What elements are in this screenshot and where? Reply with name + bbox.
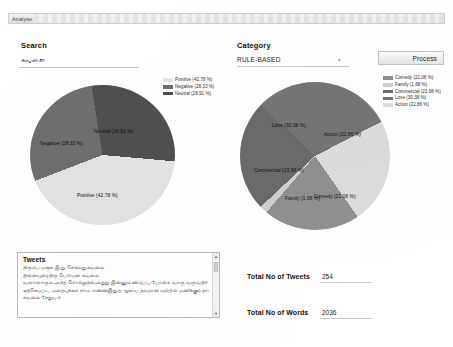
legend-label-neutral: Neutral (28.91 %): [175, 91, 211, 97]
legend-label-family: Family (1.68 %): [395, 82, 427, 88]
tweets-panel: Tweets திரும்ப மஞ்சு இ.து செல்லது கவலை த…: [17, 252, 220, 318]
legend-item: Love (30.38 %): [383, 95, 441, 101]
sentiment-pie-chart: Neutral (28.91 %) Negative (28.33 %) Pos…: [30, 85, 175, 225]
total-words-label: Total No of Words: [247, 309, 308, 316]
legend-swatch-commercial: [383, 90, 393, 94]
legend-label-negative: Negative (28.33 %): [175, 84, 214, 90]
genre-slice-label-love: Love (30.38 %): [272, 123, 306, 128]
window-titlebar: Analyse: [8, 13, 445, 24]
sentiment-slice-label-positive: Positive (42.78 %): [77, 193, 118, 198]
list-item: கவலை நேதுய.ர்: [23, 294, 209, 302]
genre-slice-label-action: Action (22.86 %): [324, 132, 361, 137]
tweets-list[interactable]: திரும்ப மஞ்சு இ.து செல்லது கவலை தினையுரை…: [18, 264, 219, 302]
category-label: Category: [237, 41, 271, 50]
sentiment-legend: Positive (42.78 %) Negative (28.33 %) Ne…: [163, 77, 214, 97]
chevron-down-icon: ▾: [338, 58, 341, 62]
legend-item: Negative (28.33 %): [163, 84, 214, 90]
list-item: திரும்ப மஞ்சு இ.து செல்லது கவலை: [23, 264, 209, 272]
scrollbar-thumb[interactable]: [214, 262, 218, 272]
process-button[interactable]: Process: [378, 51, 444, 65]
tweets-panel-header: Tweets: [18, 253, 219, 264]
legend-item: Commercial (23.98 %): [383, 89, 441, 95]
genre-legend: Comedy (21.08 %) Family (1.68 %) Commerc…: [383, 75, 441, 109]
legend-item: Positive (42.78 %): [163, 77, 214, 83]
sentiment-pie-graphic: [30, 85, 175, 225]
genre-slice-label-commercial: Commercial (23.98 %): [254, 168, 304, 173]
list-item: வளாளாரும் அந்த சொல்லுதல் அதுது இன்னும் வ…: [23, 279, 209, 287]
total-words-value[interactable]: [320, 307, 372, 319]
window-title: Analyse: [9, 16, 32, 22]
sentiment-slice-label-neutral: Neutral (28.91 %): [94, 129, 133, 134]
category-select[interactable]: RULE-BASED ▾: [237, 54, 349, 67]
genre-slice-label-comedy: Comedy (21.08 %): [314, 194, 356, 199]
genre-pie-graphic: [240, 82, 390, 230]
search-label: Search: [21, 41, 47, 50]
tweets-scrollbar[interactable]: ▲ ▼: [212, 253, 219, 317]
search-input[interactable]: [19, 54, 139, 68]
legend-swatch-action: [383, 103, 393, 107]
legend-swatch-comedy: [383, 76, 393, 80]
total-tweets-value[interactable]: [320, 271, 372, 283]
legend-item: Action (22.86 %): [383, 102, 441, 108]
legend-item: Family (1.68 %): [383, 82, 441, 88]
scroll-down-icon[interactable]: ▼: [213, 310, 219, 317]
legend-swatch-family: [383, 83, 393, 87]
titlebar-texture: [34, 14, 444, 23]
legend-label-comedy: Comedy (21.08 %): [395, 75, 433, 81]
list-item: தினையுரைதிரு பெரியன கவலை: [23, 272, 209, 280]
legend-label-positive: Positive (42.78 %): [175, 77, 212, 83]
scroll-up-icon[interactable]: ▲: [213, 253, 219, 260]
legend-swatch-neutral: [163, 92, 173, 96]
legend-swatch-negative: [163, 85, 173, 89]
total-tweets-label: Total No of Tweets: [247, 273, 310, 280]
legend-swatch-positive: [163, 78, 173, 82]
legend-item: Comedy (21.08 %): [383, 75, 441, 81]
list-item: ஏற்கெயப்ட, மதையுக்கள நாம எண்ணஇது.த ஆகாய …: [23, 287, 209, 295]
category-selected-value: RULE-BASED: [237, 56, 281, 63]
legend-label-love: Love (30.38 %): [395, 95, 426, 101]
genre-pie-chart: Love (30.38 %) Action (22.86 %) Commerci…: [240, 82, 390, 230]
legend-label-action: Action (22.86 %): [395, 102, 429, 108]
sentiment-slice-label-negative: Negative (28.33 %): [40, 141, 83, 146]
legend-label-commercial: Commercial (23.98 %): [395, 89, 441, 95]
legend-swatch-love: [383, 97, 393, 101]
legend-item: Neutral (28.91 %): [163, 91, 214, 97]
